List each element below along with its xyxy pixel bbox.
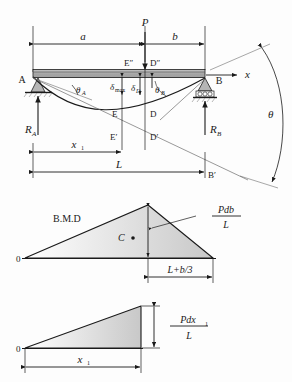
shear-origin-label: 0 (16, 344, 21, 354)
diagram-top-group: a b P A (18, 16, 283, 188)
diagram-bottom-group: 0 Pdx 1 L x 1 (16, 306, 208, 373)
point-e-label: E (112, 109, 118, 119)
shear-height-numerator: Pdx (179, 314, 196, 325)
load-label: P (141, 16, 149, 28)
centroid-dot (131, 236, 135, 240)
dim-x1-label: x (71, 138, 77, 150)
point-e-prime-label: E′ (110, 132, 117, 142)
bmd-base-dim-label: L+b/3 (166, 264, 192, 275)
support-b-label: B (216, 75, 223, 86)
shear-base-dim-label: x (77, 353, 83, 365)
support-a-label: A (18, 74, 26, 85)
shear-base-dim-sub: 1 (87, 360, 90, 366)
dim-L-label: L (115, 158, 122, 170)
beam-body (33, 70, 205, 78)
shear-height-denominator: L (185, 330, 192, 341)
bmd-origin-label: 0 (16, 254, 21, 264)
reaction-b-sub: B (217, 130, 222, 138)
centroid-label: C (118, 232, 125, 243)
point-e-dprime-label: E″ (124, 58, 133, 68)
point-d-prime-label: D′ (150, 132, 158, 142)
figure-svg: a b P A (0, 0, 292, 382)
theta-label: θ (268, 108, 274, 120)
point-d-dprime-label: D″ (150, 58, 160, 68)
figure-root: a b P A (0, 0, 292, 382)
reaction-a-sub: A (31, 130, 37, 138)
bmd-peak-numerator: Pdb (217, 204, 234, 215)
support-b (192, 78, 217, 102)
reaction-b-label: R (209, 123, 217, 135)
support-a (24, 78, 52, 97)
point-d-label: D (150, 109, 157, 119)
theta-a-label: θ (76, 85, 81, 95)
shear-triangle (25, 306, 141, 348)
x-axis-label: x (244, 68, 250, 80)
diagram-middle-group: 0 B.M.D C Pdb L L+b/3 (16, 204, 241, 283)
point-b-prime-label: B′ (208, 170, 216, 180)
bmd-peak-denominator: L (222, 219, 229, 230)
reaction-a-label: R (24, 123, 32, 135)
theta-a-sub: A (81, 90, 86, 96)
dim-x1-sub: 1 (81, 145, 84, 151)
bmd-title-label: B.M.D (53, 213, 81, 224)
dim-b-label: b (172, 30, 178, 42)
dimension-x1 (33, 143, 121, 160)
dim-a-label: a (80, 30, 86, 42)
delta-d-sub: D (135, 88, 141, 94)
deflection-curve (33, 77, 205, 110)
delta-max-sub: max (115, 87, 125, 93)
